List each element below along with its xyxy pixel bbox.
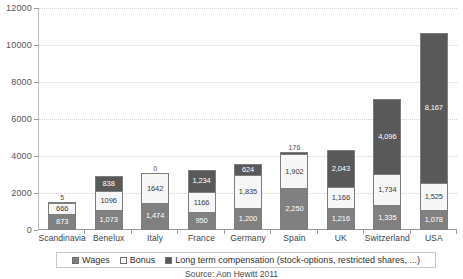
plot-area: 020004000600080001000012000 566687383810… xyxy=(38,8,457,230)
bar-segment-label: 2,043 xyxy=(328,165,354,173)
legend-item-label: Long term compensation (stock-options, r… xyxy=(175,255,420,265)
bonus-swatch xyxy=(120,257,127,264)
bar-segment[interactable]: 1096 xyxy=(95,191,123,211)
legend-item[interactable]: Long term compensation (stock-options, r… xyxy=(165,255,420,265)
x-axis-label: Spain xyxy=(283,233,305,243)
y-tick-mark xyxy=(34,119,38,120)
x-axis-category-labels: ScandinaviaBeneluxItalyFranceGermanySpai… xyxy=(39,233,457,247)
bar-group[interactable]: 83810961,073 xyxy=(85,8,131,230)
y-tick-label: 12000 xyxy=(6,3,32,13)
bar-segment-label: 624 xyxy=(235,166,261,174)
bar-segment[interactable]: 950 xyxy=(188,212,216,230)
stacked-bar[interactable]: 1,2341166950 xyxy=(188,170,216,230)
x-axis-label: Germany xyxy=(230,233,266,243)
stacked-bar-chart: 020004000600080001000012000 566687383810… xyxy=(0,0,463,279)
bar-segment[interactable]: 1,216 xyxy=(327,208,355,230)
bar-group[interactable]: 6241,8351,200 xyxy=(225,8,271,230)
bar-segment[interactable]: 4,096 xyxy=(373,99,401,175)
bar-segment-label: 1,474 xyxy=(142,213,168,221)
y-tick-label: 2000 xyxy=(11,188,32,198)
bar-segment-label: 1,078 xyxy=(421,216,447,224)
bar-segment[interactable]: 838 xyxy=(95,176,123,192)
legend-item[interactable]: Wages xyxy=(72,255,110,265)
bar-segment[interactable]: 1,525 xyxy=(420,183,448,211)
wages-swatch xyxy=(72,257,79,264)
bar-group[interactable]: 1,2341166950 xyxy=(178,8,224,230)
bar-segment[interactable]: 1,335 xyxy=(373,205,401,230)
bar-segment-label: 176 xyxy=(280,144,308,151)
bar-segment-label: 1,073 xyxy=(96,216,122,224)
x-axis-label: Italy xyxy=(147,233,163,243)
bar-segment-label: 5 xyxy=(48,194,76,201)
bar-segment-label: 0 xyxy=(141,165,169,172)
legend-item[interactable]: Bonus xyxy=(120,255,156,265)
chart-legend: WagesBonusLong term compensation (stock-… xyxy=(56,252,436,268)
y-tick-mark xyxy=(34,8,38,9)
stacked-bar[interactable]: 83810961,073 xyxy=(95,176,123,230)
bar-segment-label: 1,216 xyxy=(328,215,354,223)
bar-segment-label: 1,166 xyxy=(328,194,354,202)
bar-segment[interactable]: 1,073 xyxy=(95,210,123,230)
bar-segment[interactable]: 1166 xyxy=(188,192,216,214)
bar-segment[interactable]: 2,043 xyxy=(327,150,355,188)
y-tick-mark xyxy=(34,156,38,157)
bar-group[interactable]: 4,0961,7341,335 xyxy=(364,8,410,230)
bar-segment[interactable]: 1642 xyxy=(141,173,169,203)
source-note: Source: Aon Hewitt 2011 xyxy=(0,269,463,279)
bars-layer: 566687383810961,073016421,4741,234116695… xyxy=(39,8,457,230)
ltc-swatch xyxy=(165,257,172,264)
y-tick-mark xyxy=(34,193,38,194)
stacked-bar[interactable]: 5666873 xyxy=(48,202,76,230)
y-tick-label: 10000 xyxy=(6,40,32,50)
x-axis-label: UK xyxy=(335,233,347,243)
bar-segment[interactable]: 1,835 xyxy=(234,175,262,209)
bar-segment[interactable]: 1,902 xyxy=(280,154,308,189)
bar-segment-label: 1,525 xyxy=(421,193,447,201)
bar-segment[interactable]: 1,166 xyxy=(327,187,355,209)
bar-group[interactable]: 016421,474 xyxy=(132,8,178,230)
bar-segment-label: 1096 xyxy=(96,197,122,205)
bar-group[interactable]: 2,0431,1661,216 xyxy=(318,8,364,230)
stacked-bar[interactable]: 016421,474 xyxy=(141,173,169,230)
bar-segment-label: 1166 xyxy=(189,199,215,207)
y-tick-mark xyxy=(34,45,38,46)
bar-segment-label: 1,234 xyxy=(189,178,215,186)
bar-segment-label: 1,734 xyxy=(374,187,400,195)
bar-segment[interactable]: 1,078 xyxy=(420,210,448,230)
bar-group[interactable]: 5666873 xyxy=(39,8,85,230)
bar-segment-label: 873 xyxy=(49,218,75,226)
x-axis-label: Scandinavia xyxy=(39,233,86,243)
bar-group[interactable]: 8,1671,5251,078 xyxy=(411,8,457,230)
y-tick-label: 0 xyxy=(27,225,32,235)
bar-segment-label: 838 xyxy=(96,180,122,188)
stacked-bar[interactable]: 8,1671,5251,078 xyxy=(420,33,448,230)
y-tick-label: 8000 xyxy=(11,77,32,87)
x-axis-label: Switzerland xyxy=(365,233,410,243)
bar-segment-label: 666 xyxy=(49,205,75,213)
bar-segment-label: 8,167 xyxy=(421,105,447,113)
stacked-bar[interactable]: 1761,9022,250 xyxy=(280,152,308,230)
bar-segment[interactable]: 2,250 xyxy=(280,188,308,230)
x-axis-label: France xyxy=(188,233,215,243)
bar-segment-label: 2,250 xyxy=(281,205,307,213)
bar-group[interactable]: 1761,9022,250 xyxy=(271,8,317,230)
x-axis-label: USA xyxy=(425,233,443,243)
bar-segment[interactable]: 1,734 xyxy=(373,174,401,206)
x-axis-label: Benelux xyxy=(93,233,124,243)
y-tick-label: 4000 xyxy=(11,151,32,161)
stacked-bar[interactable]: 6241,8351,200 xyxy=(234,164,262,230)
y-tick-mark xyxy=(34,230,38,231)
bar-segment[interactable]: 1,234 xyxy=(188,170,216,193)
legend-item-label: Wages xyxy=(82,255,110,265)
y-tick-mark xyxy=(34,82,38,83)
bar-segment[interactable]: 8,167 xyxy=(420,33,448,184)
stacked-bar[interactable]: 2,0431,1661,216 xyxy=(327,150,355,230)
bar-segment[interactable]: 1,474 xyxy=(141,203,169,230)
bar-segment-label: 1,200 xyxy=(235,215,261,223)
y-tick-label: 6000 xyxy=(11,114,32,124)
bar-segment-label: 1,335 xyxy=(374,214,400,222)
bar-segment[interactable]: 1,200 xyxy=(234,208,262,230)
bar-segment-label: 1,902 xyxy=(281,168,307,176)
bar-segment[interactable]: 873 xyxy=(48,214,76,230)
stacked-bar[interactable]: 4,0961,7341,335 xyxy=(373,99,401,230)
